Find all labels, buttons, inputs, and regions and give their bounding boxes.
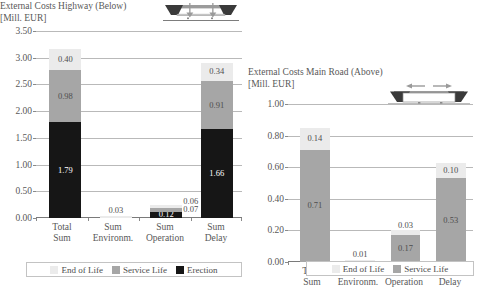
- y-tick-label: 0.00: [267, 257, 284, 267]
- x-tick-mark: [288, 262, 289, 265]
- bar-segment-service-life[interactable]: 0.98: [49, 70, 81, 122]
- bar-segment-service-life[interactable]: 0.07: [150, 208, 182, 212]
- y-tick-label: 3.50: [15, 26, 32, 36]
- legend-swatch-icon: [112, 266, 120, 274]
- bar-segment-end-of-life[interactable]: 0.10: [436, 163, 466, 179]
- bar-group-total-sum[interactable]: 0.71 0.14: [300, 128, 330, 262]
- bar-value-label: 1.79: [58, 166, 73, 175]
- x-axis-label-sum-environm: Sum Environm.: [87, 222, 139, 244]
- bar-group-sum-delay[interactable]: 1.66 0.91 0.34: [201, 63, 233, 218]
- bar-segment-service-life[interactable]: 0.91: [201, 81, 233, 130]
- legend-label: Service Life: [123, 265, 167, 275]
- bar-segment-service-life[interactable]: 0.17: [391, 235, 421, 262]
- bar-segment-erection[interactable]: 0.12: [150, 212, 182, 218]
- bar-value-label: 0.71: [307, 201, 322, 210]
- bar-value-label: 0.17: [398, 244, 413, 253]
- bar-value-label: 0.34: [209, 67, 224, 76]
- bars-layer-right: 0.71 0.14 0.01 0.17 0.03: [288, 104, 473, 262]
- y-tick-label: 0.40: [267, 194, 284, 204]
- y-tick-label: 0.20: [267, 225, 284, 235]
- y-tick-label: 0.00: [15, 213, 32, 223]
- x-tick-mark: [139, 218, 140, 221]
- x-tick-mark: [88, 218, 89, 221]
- bar-segment-end-of-life[interactable]: 0.06: [150, 205, 182, 208]
- legend-label: End of Life: [343, 264, 384, 274]
- x-axis-label-sum-operation: Sum Operation: [139, 222, 191, 244]
- bar-segment-end-of-life[interactable]: 0.03: [100, 216, 132, 218]
- legend-swatch-icon: [332, 265, 340, 273]
- bar-segment-end-of-life[interactable]: 0.34: [201, 63, 233, 81]
- x-tick-mark: [191, 218, 192, 221]
- legend-item-erection[interactable]: Erection: [176, 265, 218, 275]
- legend-item-end-of-life[interactable]: End of Life: [50, 265, 102, 275]
- x-axis-label-sum-delay: Sum Delay: [190, 222, 242, 244]
- bar-group-sum-operation[interactable]: 0.12 0.07 0.06: [150, 205, 182, 218]
- bridge-section-load-above-icon: [388, 82, 470, 106]
- legend-right: End of Life Service Life: [306, 261, 474, 276]
- plot-area-left: 0.00 0.50 1.00 1.50 2.00 2.50 3.00 3.50 …: [36, 31, 242, 218]
- bar-segment-erection[interactable]: 1.66: [201, 129, 233, 218]
- chart-highway-below: External Costs Highway (Below) [Mill. EU…: [0, 0, 250, 287]
- x-axis-label-line: Sum: [36, 233, 88, 244]
- bar-value-label: 0.40: [58, 55, 73, 64]
- plot-area-right: 0.00 0.20 0.40 0.60 0.80 1.00 0.71 0.14: [288, 104, 473, 262]
- legend-item-service-life[interactable]: Service Life: [393, 264, 448, 274]
- y-tick-label: 2.50: [15, 79, 32, 89]
- bridge-section-load-below-icon: [163, 2, 239, 24]
- bar-segment-service-life[interactable]: 0.71: [300, 150, 330, 262]
- bar-value-label: 0.06: [183, 197, 198, 206]
- legend-swatch-icon: [393, 265, 401, 273]
- y-tick-label: 0.80: [267, 131, 284, 141]
- x-axis-label-line: Environm.: [87, 233, 139, 244]
- x-axis-label-line: Total: [36, 222, 88, 233]
- bar-value-label: 0.03: [398, 221, 413, 230]
- bar-group-total-sum[interactable]: 1.79 0.98 0.40: [49, 49, 81, 218]
- bar-value-label: 0.01: [353, 250, 368, 259]
- bar-segment-service-life[interactable]: 0.53: [436, 178, 466, 262]
- y-tick-label: 3.00: [15, 53, 32, 63]
- y-tick-label: 1.00: [267, 99, 284, 109]
- legend-item-service-life[interactable]: Service Life: [112, 265, 167, 275]
- x-axis-label-total-sum: Total Sum: [36, 222, 88, 244]
- bar-segment-end-of-life[interactable]: 0.03: [391, 230, 421, 235]
- bar-value-label: 0.12: [159, 210, 174, 219]
- bar-value-label: 0.10: [443, 166, 458, 175]
- chart-main-road-above: External Costs Main Road (Above) [Mill. …: [240, 66, 482, 287]
- legend-swatch-icon: [50, 266, 58, 274]
- x-axis-label-line: Sum: [288, 277, 336, 287]
- bar-value-label: 0.53: [443, 216, 458, 225]
- legend-label: Service Life: [404, 264, 448, 274]
- x-axis-label-line: Delay: [190, 233, 242, 244]
- x-axis-label-line: Environm.: [334, 277, 382, 287]
- bar-group-sum-operation[interactable]: 0.17 0.03: [391, 230, 421, 262]
- legend-left: End of Life Service Life Erection: [26, 262, 242, 277]
- legend-label: End of Life: [61, 265, 102, 275]
- x-axis-label-line: Operation: [380, 277, 428, 287]
- bar-value-label: 1.66: [209, 169, 224, 178]
- bar-value-label: 0.91: [209, 101, 224, 110]
- bar-segment-end-of-life[interactable]: 0.14: [300, 128, 330, 150]
- x-tick-mark: [36, 218, 37, 221]
- y-tick-label: 1.00: [15, 160, 32, 170]
- x-axis-label-line: Sum: [139, 222, 191, 233]
- x-axis-label-line: Sum: [190, 222, 242, 233]
- y-tick-label: 0.60: [267, 162, 284, 172]
- bar-value-label: 0.07: [183, 205, 198, 214]
- bar-segment-erection[interactable]: 1.79: [49, 122, 81, 218]
- chart-title-right: External Costs Main Road (Above): [248, 66, 482, 78]
- bar-group-sum-delay[interactable]: 0.53 0.10: [436, 163, 466, 262]
- bar-value-label: 0.98: [58, 92, 73, 101]
- legend-item-end-of-life[interactable]: End of Life: [332, 264, 384, 274]
- x-axis-label-line: Sum: [87, 222, 139, 233]
- y-tick-label: 1.50: [15, 133, 32, 143]
- bar-value-label: 0.03: [108, 206, 123, 215]
- bar-segment-end-of-life[interactable]: 0.40: [49, 49, 81, 70]
- y-tick-label: 2.00: [15, 106, 32, 116]
- legend-swatch-icon: [176, 266, 184, 274]
- x-axis-label-line: Delay: [426, 277, 474, 287]
- bar-group-sum-environm[interactable]: 0.03: [100, 216, 132, 218]
- y-tick-label: 0.50: [15, 186, 32, 196]
- bar-value-label: 0.14: [307, 134, 322, 143]
- legend-label: Erection: [187, 265, 218, 275]
- bars-layer-left: 1.79 0.98 0.40 0.03 0.12: [36, 31, 242, 218]
